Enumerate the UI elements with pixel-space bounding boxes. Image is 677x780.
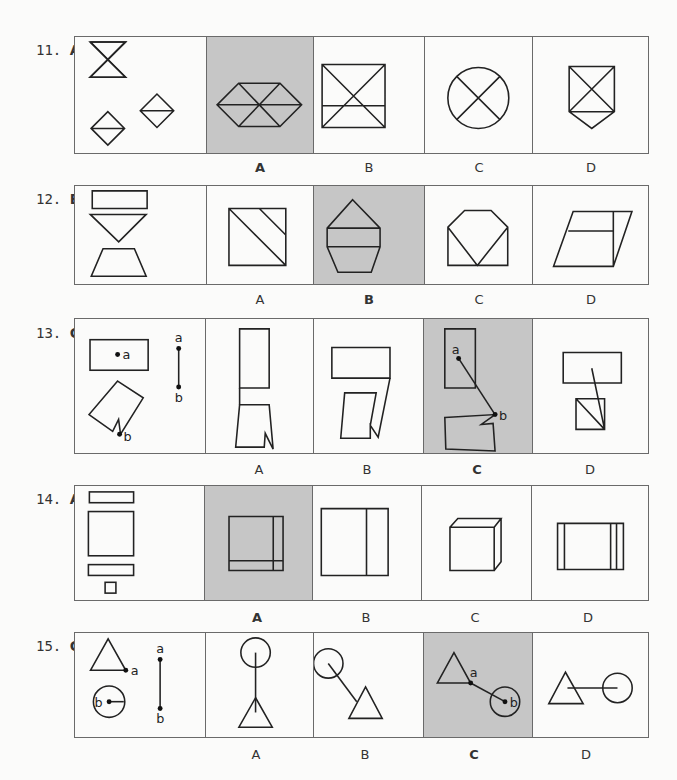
hexagon-figure: [207, 37, 314, 153]
q13-label-b: B: [337, 462, 397, 477]
q11-label-b: B: [339, 160, 399, 175]
q15-label-a: A: [226, 747, 286, 762]
q14-label-c: C: [445, 610, 505, 625]
shield-x-figure: [533, 37, 648, 153]
question-number: 14.: [36, 491, 61, 507]
q15-option-b[interactable]: [314, 633, 424, 737]
q13-option-a[interactable]: [206, 319, 315, 453]
q15-prompt-figure: a b a b: [75, 633, 206, 737]
svg-text:b: b: [156, 711, 164, 726]
q13-label-d: D: [560, 462, 620, 477]
question-12-row: [74, 185, 649, 285]
svg-text:b: b: [499, 408, 507, 423]
question-number: 15.: [36, 638, 61, 654]
q13-option-d[interactable]: [533, 319, 648, 453]
q15-option-a[interactable]: [206, 633, 314, 737]
q12-option-a[interactable]: [207, 186, 315, 284]
point-a-label: a: [123, 347, 131, 362]
q12-prompt-figure: [75, 186, 207, 284]
q13-label-a: A: [229, 462, 289, 477]
q11-option-c[interactable]: [425, 37, 534, 153]
q15-option-c[interactable]: a b: [424, 633, 533, 737]
q12-option-d[interactable]: [533, 186, 648, 284]
q14-option-a[interactable]: [205, 486, 313, 600]
svg-text:a: a: [131, 663, 139, 678]
question-13-row: a b a b a b: [74, 318, 649, 454]
svg-text:a: a: [156, 641, 164, 656]
q11-label-a: A: [230, 160, 290, 175]
q13-option-c[interactable]: a b: [424, 319, 534, 453]
q11-label-c: C: [449, 160, 509, 175]
svg-text:b: b: [94, 695, 102, 710]
q14-label-a: A: [227, 610, 287, 625]
q11-label-d: D: [561, 160, 621, 175]
q13-label-c: C: [447, 462, 507, 477]
question-15-row: a b a b a: [74, 632, 649, 738]
question-14-row: [74, 485, 649, 601]
q14-option-c[interactable]: [422, 486, 532, 600]
question-number: 13.: [36, 325, 61, 341]
q13-option-b[interactable]: [314, 319, 424, 453]
q14-prompt-figure: [75, 486, 205, 600]
q15-option-d[interactable]: [533, 633, 648, 737]
q12-label-b: B: [339, 292, 399, 307]
q14-label-d: D: [558, 610, 618, 625]
q11-option-d[interactable]: [533, 37, 648, 153]
q11-prompt-figure: [75, 37, 207, 153]
q14-option-d[interactable]: [532, 486, 647, 600]
q12-label-a: A: [230, 292, 290, 307]
circle-x-figure: [425, 37, 533, 153]
q11-option-b[interactable]: [314, 37, 425, 153]
question-number: 12.: [36, 191, 61, 207]
q15-label-c: C: [444, 747, 504, 762]
svg-text:a: a: [175, 330, 183, 345]
q15-label-b: B: [335, 747, 395, 762]
q14-option-b[interactable]: [313, 486, 422, 600]
svg-text:a: a: [452, 342, 460, 357]
q12-option-b[interactable]: [314, 186, 425, 284]
q13-prompt-figure: a b a b: [75, 319, 206, 453]
q11-option-a[interactable]: [207, 37, 315, 153]
q12-label-c: C: [449, 292, 509, 307]
point-b-label: b: [124, 429, 132, 444]
svg-text:b: b: [510, 695, 518, 710]
q15-label-d: D: [556, 747, 616, 762]
square-x-figure: [314, 37, 424, 153]
svg-text:b: b: [175, 390, 183, 405]
q12-option-c[interactable]: [425, 186, 534, 284]
q14-label-b: B: [336, 610, 396, 625]
svg-text:a: a: [470, 665, 478, 680]
q12-label-d: D: [561, 292, 621, 307]
question-11-row: [74, 36, 649, 154]
question-number: 11.: [36, 42, 61, 58]
